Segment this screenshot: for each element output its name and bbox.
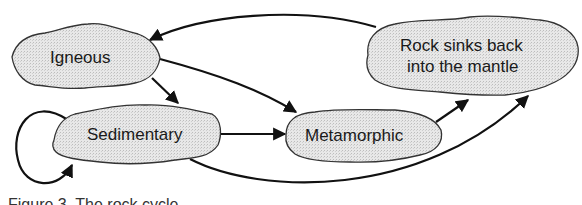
node-mantle: Rock sinks back into the mantle	[367, 16, 578, 95]
edge-mantle-to-igneous	[150, 15, 376, 40]
edge-igneous-to-metamorphic	[160, 59, 296, 112]
node-label: Metamorphic	[305, 126, 404, 145]
node-metamorphic: Metamorphic	[286, 110, 442, 163]
edge-igneous-to-sedimentary	[152, 78, 178, 103]
edge-metamorphic-to-mantle	[436, 100, 468, 122]
node-label-line2: into the mantle	[407, 57, 519, 76]
diagram-canvas: Igneous Sedimentary Metamorphic Rock sin…	[0, 0, 582, 205]
node-label: Sedimentary	[87, 125, 183, 144]
figure-caption: Figure 3. The rock cycle	[8, 196, 178, 205]
node-igneous: Igneous	[12, 24, 160, 89]
node-label: Igneous	[50, 48, 111, 67]
rock-cycle-diagram: Igneous Sedimentary Metamorphic Rock sin…	[0, 0, 582, 205]
node-label-line1: Rock sinks back	[400, 36, 523, 55]
node-sedimentary: Sedimentary	[53, 105, 221, 164]
